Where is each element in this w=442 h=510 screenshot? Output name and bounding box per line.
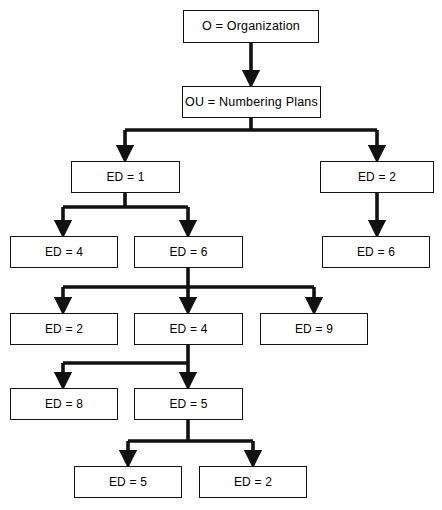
node-ed-4-level3[interactable]: ED = 4 <box>10 236 118 268</box>
node-ed-2-right[interactable]: ED = 2 <box>320 161 434 193</box>
node-ed-6-right[interactable]: ED = 6 <box>322 236 430 268</box>
node-label: ED = 4 <box>169 323 207 335</box>
node-ed-5-leaf[interactable]: ED = 5 <box>74 466 182 498</box>
node-o-organization[interactable]: O = Organization <box>183 10 319 43</box>
node-ed-1[interactable]: ED = 1 <box>71 161 180 193</box>
node-label: ED = 6 <box>357 246 395 258</box>
node-label: ED = 9 <box>295 323 333 335</box>
node-label: ED = 2 <box>358 171 396 183</box>
node-ed-5-level5[interactable]: ED = 5 <box>134 388 243 420</box>
node-ed-2-level4[interactable]: ED = 2 <box>10 313 118 345</box>
node-label: O = Organization <box>202 20 300 33</box>
tree-diagram: O = Organization OU = Numbering Plans ED… <box>0 0 442 510</box>
node-label: ED = 2 <box>45 323 83 335</box>
node-label: ED = 5 <box>169 398 207 410</box>
node-ou-numbering-plans[interactable]: OU = Numbering Plans <box>182 86 321 118</box>
node-label: ED = 2 <box>234 476 272 488</box>
node-label: ED = 5 <box>109 476 147 488</box>
node-label: ED = 1 <box>106 171 144 183</box>
node-label: ED = 8 <box>45 398 83 410</box>
node-ed-4-level4[interactable]: ED = 4 <box>134 313 243 345</box>
node-ed-2-leaf[interactable]: ED = 2 <box>199 466 307 498</box>
node-ed-8[interactable]: ED = 8 <box>10 388 118 420</box>
node-label: ED = 4 <box>45 246 83 258</box>
node-ed-6-level3[interactable]: ED = 6 <box>134 236 243 268</box>
node-ed-9[interactable]: ED = 9 <box>260 313 368 345</box>
node-label: ED = 6 <box>169 246 207 258</box>
node-label: OU = Numbering Plans <box>185 96 318 109</box>
